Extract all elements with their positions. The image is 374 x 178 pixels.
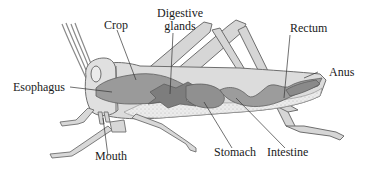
label-digestive-glands-line1: Digestive xyxy=(150,7,210,19)
label-crop: Crop xyxy=(104,19,128,31)
label-intestine: Intestine xyxy=(267,146,308,158)
label-esophagus: Esophagus xyxy=(13,81,65,93)
label-stomach: Stomach xyxy=(214,146,256,158)
label-rectum: Rectum xyxy=(290,22,327,34)
label-anus: Anus xyxy=(329,66,354,78)
compound-eye xyxy=(91,66,101,82)
label-mouth: Mouth xyxy=(95,150,127,162)
label-digestive-glands-line2: glands xyxy=(150,20,210,32)
mouthparts xyxy=(98,112,110,124)
grasshopper-diagram: Crop Digestive glands Rectum Anus Esopha… xyxy=(0,0,374,178)
